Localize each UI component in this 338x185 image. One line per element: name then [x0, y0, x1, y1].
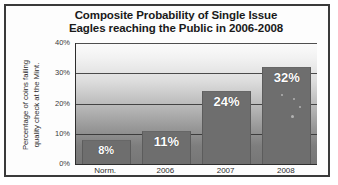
y-axis-title-line-1: Percentage of coins failing — [20, 44, 31, 166]
y-tick-label-30: 30% — [55, 68, 70, 77]
x-tick-label-2006: 2006 — [135, 165, 195, 179]
bar-series: 8% 11% 24% 32% — [76, 43, 317, 164]
bar-2008[interactable]: 32% — [262, 67, 311, 164]
bar-2007[interactable]: 24% — [202, 91, 251, 164]
chart-title-line-2: Eagles reaching the Public in 2006-2008 — [36, 22, 316, 35]
chart-frame: Composite Probability of Single Issue Ea… — [4, 4, 330, 177]
y-axis-tick-labels: 40% 30% 20% 10% 0% — [48, 42, 72, 164]
bar-value-2008: 32% — [274, 71, 300, 84]
plot-area: 8% 11% 24% 32% — [75, 43, 317, 165]
image-artifact-speckle — [291, 115, 294, 118]
bar-value-2007: 24% — [214, 95, 240, 108]
image-artifact-speckle — [299, 106, 301, 108]
chart-title: Composite Probability of Single Issue Ea… — [36, 9, 316, 35]
x-axis-tick-labels: Norm. 2006 2007 2008 — [75, 165, 316, 179]
y-axis-title: Percentage of coins failing quality chec… — [20, 44, 46, 166]
bar-slot-2006: 11% — [136, 43, 196, 164]
image-artifact-speckle — [293, 98, 295, 100]
bar-slot-2007: 24% — [197, 43, 257, 164]
y-tick-label-40: 40% — [55, 38, 70, 47]
x-tick-label-2007: 2007 — [196, 165, 256, 179]
bar-slot-2008: 32% — [257, 43, 317, 164]
bar-value-2006: 11% — [154, 135, 179, 148]
x-tick-label-norm: Norm. — [75, 165, 135, 179]
bar-norm[interactable]: 8% — [82, 140, 131, 164]
chart-title-line-1: Composite Probability of Single Issue — [36, 9, 316, 22]
y-axis-title-line-2: quality check at the Mint. — [31, 44, 42, 166]
y-tick-label-10: 10% — [55, 128, 70, 137]
bar-slot-norm: 8% — [76, 43, 136, 164]
bar-value-norm: 8% — [98, 145, 114, 156]
y-tick-label-20: 20% — [55, 98, 70, 107]
x-tick-label-2008: 2008 — [256, 165, 316, 179]
y-tick-label-0: 0% — [59, 159, 70, 168]
bar-2006[interactable]: 11% — [142, 131, 191, 164]
image-artifact-speckle — [281, 94, 283, 96]
